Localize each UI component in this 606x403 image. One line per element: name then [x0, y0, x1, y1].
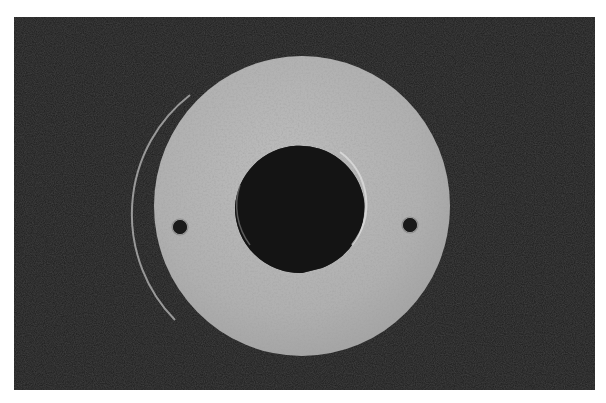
right-drill-hole	[403, 218, 417, 232]
left-drill-hole	[173, 220, 187, 234]
photograph: Photograph of a flat circular stone ring…	[14, 17, 595, 390]
bi-disc-photo	[14, 17, 595, 390]
